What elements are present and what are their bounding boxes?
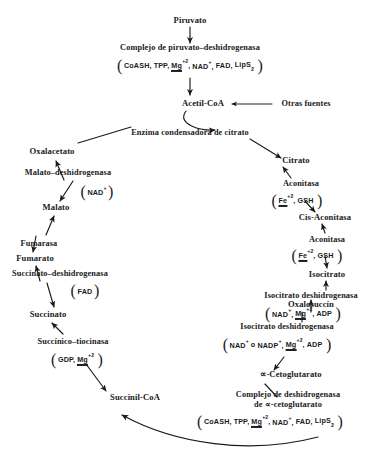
mg-charge: +2: [262, 414, 268, 420]
node-piruvato: Piruvato: [174, 16, 207, 26]
node-cis-aconitasa: Cis-Aconitasa: [299, 213, 351, 223]
nad-symbol: NAD: [272, 418, 288, 427]
arrow-sdh-to-succinato: [47, 283, 54, 307]
mg-symbol: Mg: [295, 309, 306, 318]
cofactors-idh-2: ( NAD+ o NADP+, Mg+2, ADP ): [223, 340, 332, 350]
node-citrato: Citrato: [282, 156, 309, 166]
cof-lips: LipS2: [235, 61, 254, 71]
node-isocitrato: Isocitrato: [309, 270, 345, 280]
node-succinato: Succinato: [30, 310, 67, 320]
mg-symbol: Mg: [77, 355, 88, 364]
node-malato-deshidrogenasa: Malato–deshidrogenasa: [25, 168, 111, 178]
cof-gdp: GDP,: [58, 356, 75, 363]
cof-adp: ADP: [316, 310, 332, 317]
fe-double-underline: Fe: [298, 252, 307, 261]
lips-subscript: 2: [251, 66, 254, 72]
fe-symbol: Fe: [298, 251, 307, 260]
arrow-aconitasa1-to-citrato: [283, 167, 291, 178]
mg-double-underline: Mg: [295, 310, 306, 319]
cof-fad: FAD,: [296, 418, 313, 425]
cofactors-pdh: ( CoASH, TPP, Mg+2, NAD+, FAD, LipS2 ): [117, 61, 263, 71]
nad-symbol: NAD: [87, 188, 103, 197]
cof-nad: NAD+: [87, 188, 106, 197]
cof-nadp: NADP+,: [257, 341, 283, 350]
cof-adp: ADP: [307, 341, 323, 348]
cof-coash: CoASH,: [204, 418, 232, 425]
cof-tpp: TPP,: [234, 418, 250, 425]
node-fumarato: Fumarato: [16, 254, 54, 264]
lips-symbol: LipS: [315, 416, 331, 425]
node-isocitrato-deshidrogenasa-2: Isocitrato deshidrogenasa: [240, 322, 333, 332]
fe-charge: +2: [287, 193, 293, 199]
arrow-stk-to-succinilcoa: [86, 364, 106, 391]
node-alfa-cetoglutarato: ∝-Cetoglutarato: [260, 370, 321, 380]
arrow-acetilcoa-to-condensadora: [184, 111, 215, 130]
cofactors-aconitasa-2: ( Fe+2, GSH ): [291, 251, 342, 261]
node-aconitasa-2: Aconitasa: [309, 235, 345, 245]
cof-fe: Fe+2,: [278, 196, 295, 206]
cof-fad: FAD: [78, 288, 93, 295]
cof-fad: FAD,: [216, 62, 233, 69]
mg-double-underline: Mg: [286, 341, 297, 350]
node-piruvato-deshidrogenasa: Complejo de piruvato–deshidrogenasa: [120, 43, 260, 53]
cofactors-sdh: ( FAD ): [71, 288, 100, 295]
nad-charge: +: [246, 338, 249, 344]
cof-nad: NAD+,: [272, 310, 293, 319]
nadp-symbol: NADP: [257, 341, 278, 350]
nad-charge: +: [209, 59, 212, 65]
cof-conjunction: o: [251, 341, 256, 348]
arrow-condensadora-to-citrato: [250, 139, 281, 158]
arrow-idh2-to-cetoglutarato: [274, 357, 284, 370]
nad-charge: +: [104, 185, 107, 191]
nad-symbol: NAD: [272, 310, 288, 319]
cof-tpp: TPP,: [154, 62, 170, 69]
arrow-stk-to-succinato: [52, 323, 63, 334]
node-cetoglutarato-complejo: Complejo de deshidrogenasa de ∝-cetoglut…: [236, 390, 340, 411]
mg-double-underline: Mg: [77, 356, 88, 365]
line-oxalacetato-to-condensadora: [78, 127, 131, 143]
arrow-aconitasa2-to-cisaconitasa: [322, 224, 325, 233]
node-succinato-deshidrogenasa: Succinato–deshidrogenasa: [12, 269, 108, 279]
cof-nad: NAD+,: [272, 418, 293, 427]
cof-mg: Mg+2,: [171, 61, 190, 71]
cof-nad: NAD+,: [192, 62, 213, 71]
fe-charge: +2: [307, 248, 313, 254]
cof-mg: Mg+2: [77, 355, 94, 365]
mg-charge: +2: [297, 337, 303, 343]
cofactors-stk: ( GDP, Mg+2 ): [51, 355, 103, 365]
node-malato: Malato: [43, 203, 70, 213]
cof-gsh: GSH: [318, 252, 334, 259]
cofactors-idh-1: ( NAD+, Mg+2, ADP ): [265, 309, 341, 319]
nad-symbol: NAD: [230, 341, 246, 350]
cof-gsh: GSH: [298, 197, 314, 204]
mg-symbol: Mg: [171, 61, 182, 70]
cof-mg: Mg+2,: [286, 340, 305, 350]
cofactors-aconitasa-1: ( Fe+2, GSH ): [271, 196, 322, 206]
node-aconitasa-1: Aconitasa: [283, 179, 319, 189]
node-oxalosuccin: Oxalosuccín: [288, 300, 334, 310]
krebs-cycle-diagram: Piruvato Complejo de piruvato–deshidroge…: [0, 0, 381, 453]
cetoglutarato-complejo-line2: de ∝-cetoglutarato: [254, 400, 322, 409]
node-oxalacetato: Oxalacetato: [29, 147, 74, 157]
arrow-mdh-to-malato: [60, 181, 73, 201]
fe-double-underline: Fe: [278, 197, 287, 206]
mg-symbol: Mg: [251, 417, 262, 426]
nadp-charge: +: [279, 338, 282, 344]
cof-lips: LipS2: [315, 417, 334, 427]
nad-charge: +: [289, 415, 292, 421]
nad-symbol: NAD: [192, 62, 208, 71]
lips-symbol: LipS: [235, 60, 251, 69]
fe-symbol: Fe: [278, 196, 287, 205]
node-succinil-coa: Succinil-CoA: [110, 393, 160, 403]
node-acetil-coa: Acetil-CoA: [182, 99, 224, 109]
mg-double-underline: Mg: [251, 418, 262, 427]
mg-charge: +2: [182, 58, 188, 64]
mg-charge: +2: [88, 352, 94, 358]
lips-subscript: 2: [331, 422, 334, 428]
arrow-fumarasa-to-malato: [46, 216, 54, 235]
cof-fe: Fe+2,: [298, 251, 315, 261]
cof-nad: NAD+: [230, 341, 249, 350]
cofactors-kgdh: ( CoASH, TPP, Mg+2, NAD+, FAD, LipS2 ): [197, 417, 343, 427]
cofactors-mdh: ( NAD+ ): [80, 188, 113, 197]
mg-double-underline: Mg: [171, 62, 182, 71]
